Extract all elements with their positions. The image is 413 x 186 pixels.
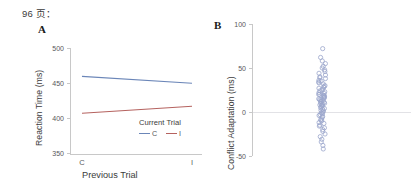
panel-a-x-axis-title: Previous Trial xyxy=(82,170,138,180)
legend-swatch-i-icon xyxy=(166,133,177,134)
panel-b-plot-area xyxy=(200,18,413,186)
panel-a-series-c-line xyxy=(82,76,192,83)
legend-items: C I xyxy=(118,129,202,138)
legend-item-i[interactable]: I xyxy=(166,129,181,138)
panel-b-scatter-chart: B Conflict Adaptation (ms) 100 50 0 -50 xyxy=(200,18,413,186)
panel-a-plot-area xyxy=(0,18,205,186)
scatter-point xyxy=(323,132,327,136)
panel-a-line-chart: A Reaction Time (ms) 500 450 400 350 Cur… xyxy=(0,18,205,186)
scatter-point xyxy=(322,121,326,125)
legend-title: Current Trial xyxy=(118,118,202,127)
legend-item-c[interactable]: C xyxy=(139,129,157,138)
panel-a-series-i-line xyxy=(82,106,192,113)
panel-a-xtick-c: C xyxy=(72,158,92,167)
legend-label-i: I xyxy=(179,129,181,138)
scatter-point xyxy=(321,47,325,51)
panel-a-legend: Current Trial C I xyxy=(118,118,202,138)
legend-label-c: C xyxy=(152,129,157,138)
panel-a-xtick-i: I xyxy=(182,158,202,167)
legend-swatch-c-icon xyxy=(139,133,150,134)
figure-container: A Reaction Time (ms) 500 450 400 350 Cur… xyxy=(0,18,413,186)
